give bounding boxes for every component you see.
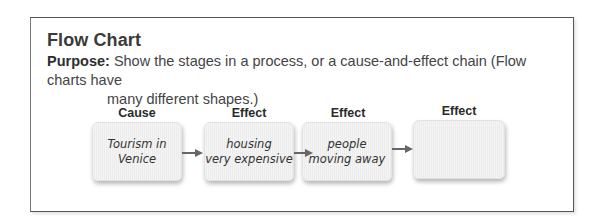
- stage-header-effect-3: Effect: [414, 104, 504, 118]
- stage-header-effect-2: Effect: [303, 106, 393, 120]
- stage-box-cause: Tourism in Venice: [92, 122, 182, 181]
- arrow-right-icon: [294, 148, 314, 158]
- purpose-text-line1: Show the stages in a process, or a cause…: [47, 53, 526, 88]
- purpose-description: Purpose: Show the stages in a process, o…: [47, 52, 567, 109]
- arrow-right-icon: [392, 144, 414, 154]
- stage-box-effect-2: people moving away: [302, 122, 392, 181]
- diagram-title: Flow Chart: [47, 30, 141, 51]
- arrow-right-icon: [182, 148, 204, 158]
- stage-header-effect-1: Effect: [204, 106, 294, 120]
- stage-text: people moving away: [309, 137, 386, 167]
- stage-text: housing very expensive: [205, 137, 293, 167]
- stage-box-effect-3: [413, 120, 505, 179]
- stage-text: Tourism in Venice: [107, 137, 166, 167]
- stage-header-cause: Cause: [92, 106, 182, 120]
- stage-box-effect-1: housing very expensive: [204, 122, 294, 181]
- purpose-label: Purpose:: [47, 53, 110, 69]
